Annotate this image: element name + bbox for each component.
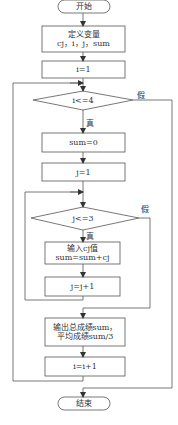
output-label: 输出总成绩sum， 平均成绩sum/3 (45, 318, 125, 346)
init-i-label: i=1 (42, 61, 125, 78)
init-j-label: j=1 (42, 163, 125, 181)
cond-i-label: i<=4 (58, 95, 108, 105)
inc-i-label: i=i+1 (45, 357, 125, 376)
cond-j-false-label: 假 (141, 205, 149, 214)
cond-i-true-label: 真 (86, 119, 94, 128)
cond-j-true-label: 真 (86, 232, 94, 241)
inc-j-label: j=j+1 (45, 277, 120, 296)
cond-j-label: j<=3 (58, 213, 108, 223)
init-sum-label: sum=0 (42, 133, 125, 152)
input-label: 输入cj值 sum=sum+cj (45, 242, 120, 264)
cond-i-false-label: 假 (137, 91, 145, 100)
start-label: 开始 (58, 0, 110, 13)
end-label: 结束 (58, 397, 110, 410)
declare-label: 定义变量 cj，i，j，sum (42, 26, 125, 52)
